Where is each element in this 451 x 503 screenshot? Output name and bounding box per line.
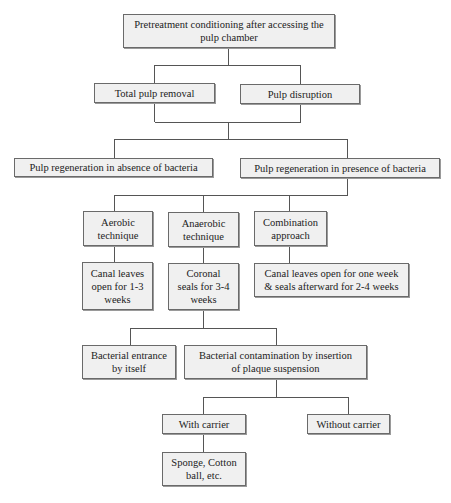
node-with-carrier: With carrier [162,414,246,434]
node-pulp-disruption: Pulp disruption [240,84,360,104]
node-plaque-suspension-insertion: Bacterial contamination by insertion of … [184,345,367,379]
node-regeneration-presence-bacteria: Pulp regeneration in presence of bacteri… [240,158,440,178]
node-aerobic-technique: Aerobic technique [83,211,153,246]
node-regeneration-absence-bacteria: Pulp regeneration in absence of bacteria [14,158,213,177]
node-anaerobic-technique: Anaerobic technique [168,212,239,247]
flowchart-canvas: Pretreatment conditioning after accessin… [0,0,451,503]
node-root-pretreatment: Pretreatment conditioning after accessin… [123,14,335,48]
node-bacterial-self-entrance: Bacterial entrance by itself [82,345,176,379]
node-carrier-examples: Sponge, Cotton ball, etc. [162,452,246,486]
node-combination-approach: Combination approach [254,211,327,246]
node-anaerobic-detail: Coronal seals for 3-4 weeks [168,263,239,310]
node-without-carrier: Without carrier [307,414,390,434]
node-total-pulp-removal: Total pulp removal [94,83,215,103]
node-aerobic-detail: Canal leaves open for 1-3 weeks [82,262,153,310]
node-combination-detail: Canal leaves open for one week & seals a… [254,263,409,297]
